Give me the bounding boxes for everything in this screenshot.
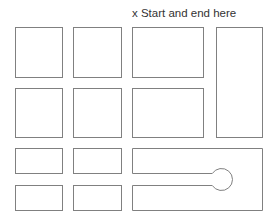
- room-r1c2: [74, 28, 122, 78]
- room-r4c1: [16, 186, 63, 211]
- room-r3c1: [16, 149, 63, 174]
- room-r1c3: [133, 28, 204, 78]
- room-tall-right: [217, 28, 263, 138]
- room-r2c3: [133, 89, 204, 138]
- room-r4c2: [74, 186, 122, 211]
- room-r3c2: [74, 149, 122, 174]
- floor-plan-diagram: [0, 0, 276, 220]
- keyhole-shape: [133, 149, 263, 211]
- room-r1c1: [16, 28, 63, 78]
- room-r2c1: [16, 89, 63, 138]
- room-r2c2: [74, 89, 122, 138]
